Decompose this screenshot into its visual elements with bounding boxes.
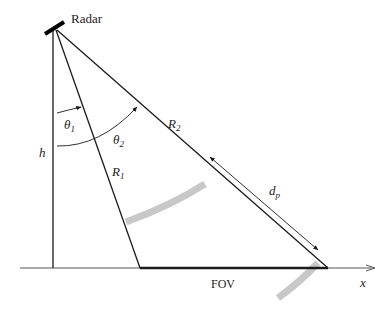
fov-label: FOV [211, 277, 235, 291]
radar-label: Radar [71, 11, 103, 26]
theta1-label: θ1 [64, 117, 75, 134]
x-axis-label: x [359, 275, 366, 290]
radar-antenna-icon [45, 22, 64, 34]
r1-label: R1 [111, 164, 124, 181]
r2-label: R2 [167, 116, 181, 133]
dp-label: dp [269, 183, 281, 200]
near-range-arc [126, 184, 205, 222]
radar-geometry-diagram: Radar h θ1 θ2 R1 R2 dp FOV x [0, 0, 392, 316]
dp-arrow [210, 157, 318, 250]
theta1-arc [57, 107, 81, 113]
theta2-label: θ2 [113, 132, 124, 149]
h-label: h [39, 145, 46, 160]
